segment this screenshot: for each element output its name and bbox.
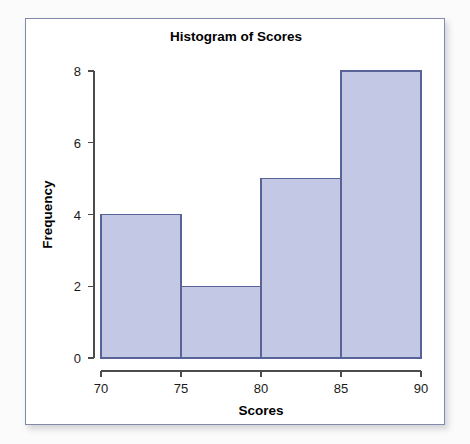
y-axis-title: Frequency [40,180,55,249]
bars-group [101,71,421,358]
chart-title: Histogram of Scores [170,29,302,44]
page-background: Histogram of Scores 0 2 4 6 [0,0,470,444]
x-tick-label-85: 85 [334,381,348,396]
x-axis: 70 75 80 85 90 Scores [94,371,428,418]
x-tick-label-75: 75 [174,381,188,396]
histogram-chart: Histogram of Scores 0 2 4 6 [26,19,446,426]
y-tick-label-8: 8 [74,64,81,79]
y-tick-label-0: 0 [74,351,81,366]
histogram-bar-75-80[interactable] [181,286,261,358]
x-tick-label-90: 90 [414,381,428,396]
figure-panel: Histogram of Scores 0 2 4 6 [25,18,445,425]
x-tick-label-80: 80 [254,381,268,396]
x-axis-title: Scores [238,403,283,418]
y-tick-label-4: 4 [74,208,81,223]
y-axis: 0 2 4 6 8 Frequency [40,64,94,366]
histogram-bar-80-85[interactable] [261,179,341,358]
y-tick-label-2: 2 [74,279,81,294]
histogram-bar-85-90[interactable] [341,71,421,358]
histogram-bar-70-75[interactable] [101,215,181,359]
y-tick-label-6: 6 [74,136,81,151]
x-tick-label-70: 70 [94,381,108,396]
